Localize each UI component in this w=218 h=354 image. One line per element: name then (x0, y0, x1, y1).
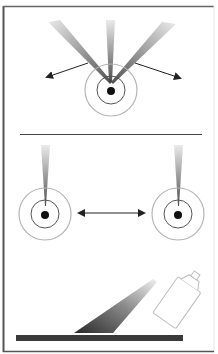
panel-spray-can (16, 265, 209, 341)
target-surface-bar (16, 335, 183, 341)
source-dot-right (174, 211, 182, 219)
spray-can-icon (153, 265, 209, 329)
source-left (19, 145, 71, 240)
beam-center (106, 20, 115, 82)
beam-left-source (41, 145, 50, 206)
source-dot-left (41, 211, 49, 219)
beam-right (111, 22, 176, 84)
panel-two-sources (19, 145, 204, 240)
beam-right-source (174, 145, 183, 206)
source-right (152, 145, 204, 240)
diagram-canvas (0, 0, 218, 354)
panel-radiating-source (47, 20, 180, 116)
spray-cone (74, 279, 157, 333)
beam-left (48, 20, 112, 84)
arrow-right (135, 63, 180, 78)
source-dot (107, 87, 115, 95)
arrow-left (47, 63, 88, 77)
